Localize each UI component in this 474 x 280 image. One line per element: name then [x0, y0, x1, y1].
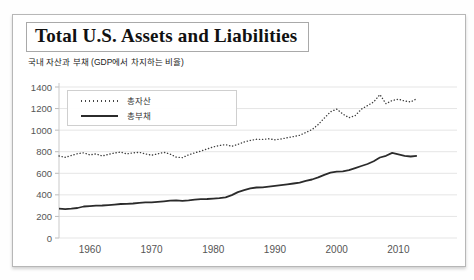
chart-subtitle: 국내 자산과 부채 (GDP에서 차지하는 비율) [28, 55, 184, 67]
legend-label-assets: 총자산 [127, 96, 151, 106]
liabilities-line-sample-icon [81, 115, 118, 117]
y-tick-label: 1400 [31, 82, 52, 93]
chart-title-box: Total U.S. Assets and Liabilities [26, 22, 309, 52]
x-tick-label: 1990 [264, 244, 287, 255]
liabilities-series-path [59, 153, 417, 209]
legend: 총자산 총부채 [67, 90, 237, 126]
legend-label-liabilities: 총부채 [127, 111, 151, 121]
x-tick-label: 1960 [79, 244, 102, 255]
x-tick-label: 2010 [387, 244, 410, 255]
x-tick-label: 2000 [326, 244, 349, 255]
legend-row-assets: 총자산 [68, 93, 236, 108]
y-tick-label: 400 [36, 189, 52, 200]
y-tick-label: 0 [47, 233, 52, 244]
x-tick-label: 1970 [140, 244, 163, 255]
y-tick-label: 600 [36, 168, 52, 179]
chart-title: Total U.S. Assets and Liabilities [35, 25, 297, 47]
y-tick-label: 1200 [31, 103, 52, 114]
y-tick-label: 800 [36, 146, 52, 157]
chart-card: 0200400600800100012001400196019701980199… [12, 14, 466, 267]
page: 0200400600800100012001400196019701980199… [0, 0, 474, 280]
y-tick-label: 1000 [31, 125, 52, 136]
line-chart: 0200400600800100012001400196019701980199… [13, 15, 465, 266]
assets-line-sample-icon [81, 100, 118, 102]
x-tick-label: 1980 [202, 244, 225, 255]
legend-row-liabilities: 총부채 [68, 108, 236, 123]
y-tick-label: 200 [36, 211, 52, 222]
